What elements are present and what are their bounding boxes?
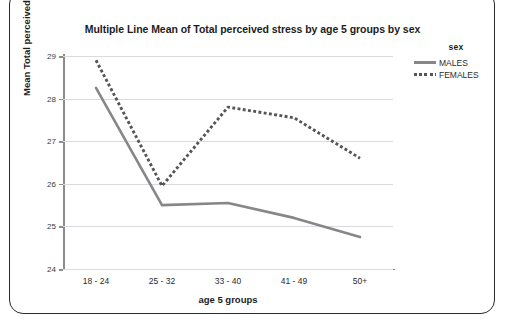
- y-tick-label: 29: [47, 52, 56, 61]
- legend-item[interactable]: MALES: [414, 57, 498, 68]
- x-tick-label: 50+: [353, 276, 367, 286]
- chart-title: Multiple Line Mean of Total perceived st…: [0, 23, 505, 35]
- y-tick-label: 27: [47, 137, 56, 146]
- y-axis-title: Mean Total perceived stress: [21, 0, 32, 96]
- y-tick-label: 25: [47, 222, 56, 231]
- legend-item-label: MALES: [439, 58, 468, 68]
- legend-item[interactable]: FEMALES: [414, 69, 498, 80]
- x-tick-label: 18 - 24: [83, 276, 109, 286]
- line-chart: Multiple Line Mean of Total perceived st…: [0, 0, 505, 325]
- x-tick-label: 25 - 32: [149, 276, 175, 286]
- x-tick-label: 33 - 40: [215, 276, 241, 286]
- y-tick-label: 28: [47, 94, 56, 103]
- series-layer: [63, 56, 393, 269]
- series-line: [96, 60, 360, 186]
- gridline: [63, 269, 393, 270]
- y-tick-mark: [59, 269, 63, 271]
- series-line: [96, 88, 360, 237]
- legend-swatch-icon: [414, 58, 436, 68]
- plot-area: 242526272829: [63, 56, 393, 269]
- y-tick-label: 24: [47, 265, 56, 274]
- legend-swatch-icon: [414, 70, 436, 80]
- legend-title: sex: [414, 42, 498, 52]
- legend-items: MALESFEMALES: [414, 57, 498, 80]
- x-axis-title: age 5 groups: [63, 294, 393, 305]
- x-tick-label: 41 - 49: [281, 276, 307, 286]
- legend-item-label: FEMALES: [439, 70, 479, 80]
- chart-legend: sex MALESFEMALES: [414, 42, 498, 81]
- y-tick-label: 26: [47, 179, 56, 188]
